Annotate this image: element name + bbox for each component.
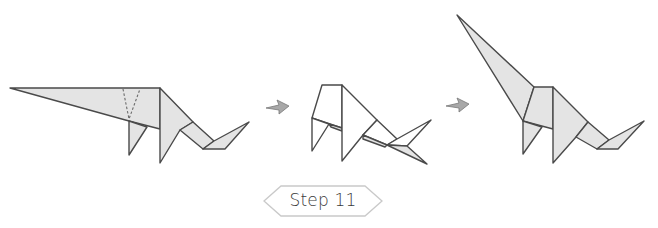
tail-tip	[203, 122, 249, 149]
raised-neck	[457, 15, 534, 121]
step-label: Step 11	[264, 185, 382, 216]
body	[342, 85, 377, 161]
front-leg	[523, 121, 542, 154]
body	[553, 87, 588, 163]
front-leg	[312, 118, 329, 151]
front-leg	[129, 121, 147, 155]
tail-flap	[387, 145, 427, 164]
figure-intermediate	[312, 85, 431, 164]
figure-after	[457, 15, 644, 163]
neck-flap	[10, 88, 160, 129]
arrow-right-icon	[266, 100, 289, 114]
tail-tip	[387, 120, 431, 146]
figure-before	[10, 88, 249, 163]
arrow-right-icon	[446, 98, 469, 112]
